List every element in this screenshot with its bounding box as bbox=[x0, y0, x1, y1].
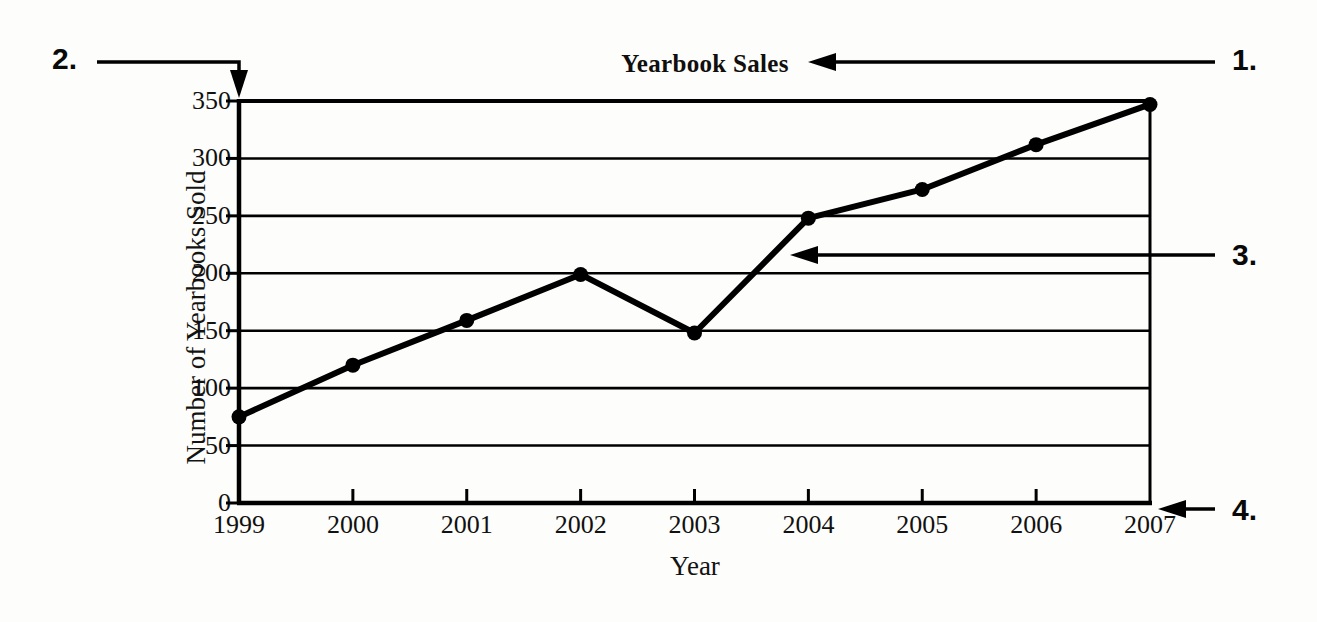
data-point-marker bbox=[801, 211, 816, 226]
data-point-marker bbox=[1143, 97, 1158, 112]
data-point-markers bbox=[232, 97, 1158, 424]
data-point-marker bbox=[232, 409, 247, 424]
data-point-marker bbox=[687, 326, 702, 341]
data-point-marker bbox=[345, 358, 360, 373]
callout-arrow-1 bbox=[808, 53, 1215, 71]
data-point-marker bbox=[459, 313, 474, 328]
callout-arrow-4 bbox=[1158, 500, 1215, 518]
data-point-marker bbox=[573, 267, 588, 282]
axes bbox=[237, 99, 1152, 504]
data-line-series bbox=[239, 104, 1150, 416]
data-point-marker bbox=[1029, 137, 1044, 152]
chart-page: Yearbook Sales Number of Yearbooks Sold … bbox=[0, 0, 1317, 622]
callout-arrow-2 bbox=[97, 62, 248, 98]
chart-svg bbox=[0, 0, 1317, 622]
data-point-marker bbox=[915, 182, 930, 197]
